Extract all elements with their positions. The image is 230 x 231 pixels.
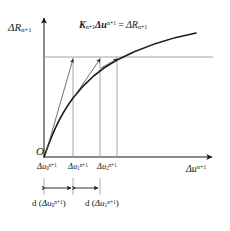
bracket-label-du1-base: Δu [95, 198, 105, 208]
bracket-label-du0: d (Δu0n+1) [32, 199, 66, 208]
bracket-label-du0-base: Δu [42, 198, 52, 208]
bracket-label-du0-prefix: d ( [32, 198, 42, 208]
bracket-label-du1-prefix: d ( [85, 198, 95, 208]
x-tick-label-u0-sup: n+1 [49, 162, 57, 168]
x-axis-label: Δun+1 [186, 164, 206, 174]
diagram-svg [0, 0, 230, 231]
x-axis-label-sup: n+1 [197, 164, 206, 170]
x-tick-label-u0: Δu0n+1 [37, 162, 57, 171]
bracket-label-du0-sup: n+1 [54, 199, 62, 205]
iteration-arrow-2 [101, 59, 117, 68]
x-tick-label-u2-base: Δu [97, 161, 106, 171]
x-tick-label-u1-sup: n+1 [80, 162, 88, 168]
iteration-arrow-0 [45, 59, 73, 156]
equation-residual-sub: n+1 [138, 24, 147, 30]
equation-stiffness: K [79, 19, 86, 30]
y-axis-label-sub: n+1 [21, 26, 31, 33]
y-axis-label: ΔRn+1 [8, 22, 32, 33]
x-tick-label-u2-sup: n+1 [109, 162, 117, 168]
x-axis-label-base: Δu [186, 163, 197, 174]
equation-residual: ΔR [126, 19, 138, 30]
bracket-label-du0-suffix: ) [63, 198, 66, 208]
equation-delta-u-sup: n+1 [107, 20, 116, 26]
origin-label: O [36, 146, 44, 157]
bracket-label-du1: d (Δu1n+1) [85, 199, 119, 208]
response-curve [44, 33, 196, 157]
figure-canvas: ΔRn+1 Δun+1 Kn+1Δun+1=ΔRn+1 O Δu0n+1 Δu1… [0, 0, 230, 231]
x-tick-label-u0-base: Δu [37, 161, 46, 171]
bracket-label-du1-suffix: ) [116, 198, 119, 208]
equation-equals: = [116, 19, 126, 30]
x-tick-label-u1: Δu1n+1 [68, 162, 88, 171]
iteration-arrow-1 [74, 59, 100, 97]
x-tick-label-u2: Δu2n+1 [97, 162, 117, 171]
x-tick-label-u1-base: Δu [68, 161, 77, 171]
bracket-label-du1-sup: n+1 [107, 199, 115, 205]
equation-stiffness-sub: n+1 [86, 24, 95, 30]
equation-delta-u: Δu [95, 19, 107, 30]
equation-label: Kn+1Δun+1=ΔRn+1 [79, 20, 147, 30]
y-axis-label-base: ΔR [8, 21, 21, 33]
